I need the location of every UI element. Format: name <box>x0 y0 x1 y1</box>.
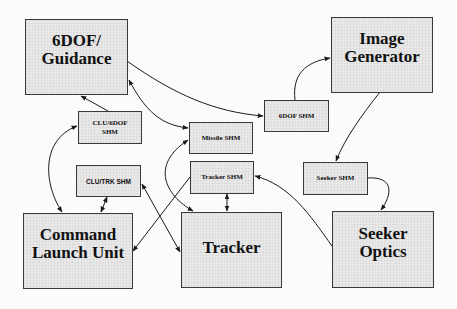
node-seeker-optics: Seeker Optics <box>332 211 434 288</box>
node-label: Command Launch Unit <box>32 226 124 262</box>
node-label: Tracker <box>202 239 260 257</box>
arrow-clu6dof-shm-to-guidance <box>81 96 108 111</box>
arrow-image-generator-to-seeker-shm <box>336 92 380 161</box>
arrow-6dof-shm-to-image-generator <box>295 58 330 100</box>
node-clu-6dof-shm: CLU/6DOF SHM <box>78 111 142 144</box>
diagram-canvas: 6DOF/ Guidance Image Generator CLU/6DOF … <box>0 0 457 309</box>
arrow-clu-clu6dof-shm <box>49 126 77 212</box>
arrow-clutrk-shm-tracker <box>142 184 180 252</box>
node-label: Seeker SHM <box>317 174 355 183</box>
node-label: Seeker Optics <box>358 225 407 261</box>
node-tracker-shm: Tracker SHM <box>190 161 254 194</box>
node-tracker: Tracker <box>181 212 282 288</box>
node-label: 6DOF SHM <box>279 112 315 121</box>
node-clu-trk-shm: CLU/TRK SHM <box>76 165 141 197</box>
node-image-generator: Image Generator <box>331 17 433 93</box>
node-label: Image Generator <box>344 30 420 66</box>
node-missile-shm: Missile SHM <box>189 122 253 154</box>
node-label: Missile SHM <box>202 134 241 143</box>
arrow-clutrk-shm-clu <box>101 197 107 212</box>
node-label: Tracker SHM <box>201 173 243 182</box>
node-command-launch-unit: Command Launch Unit <box>23 213 133 289</box>
node-label: CLU/TRK SHM <box>86 177 131 186</box>
node-6dof-guidance: 6DOF/ Guidance <box>25 19 128 95</box>
node-label: 6DOF/ Guidance <box>42 32 112 68</box>
node-6dof-shm: 6DOF SHM <box>264 100 329 132</box>
node-label: CLU/6DOF SHM <box>93 119 128 137</box>
node-seeker-shm: Seeker SHM <box>303 162 368 195</box>
arrow-seeker-shm-to-seeker-optics <box>367 178 389 210</box>
